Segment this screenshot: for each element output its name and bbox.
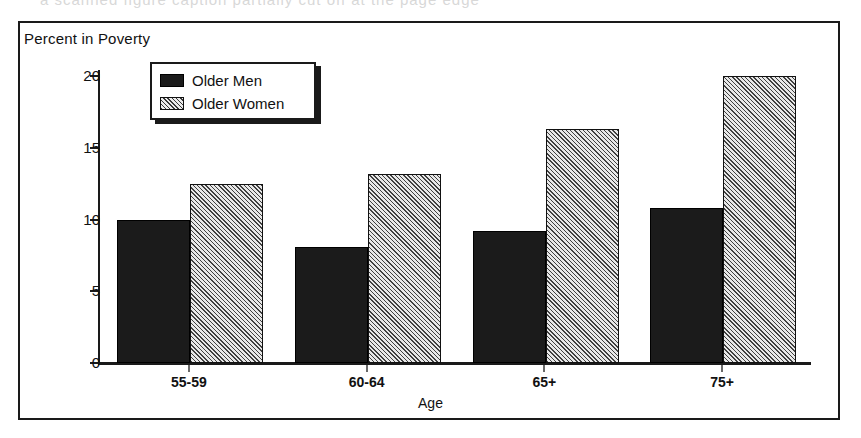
legend-item-older-men: Older Men bbox=[160, 69, 306, 92]
scan-artifact-text: a scanned figure caption partially cut o… bbox=[40, 0, 600, 9]
chart-title: Percent in Poverty bbox=[24, 30, 150, 47]
legend-label: Older Men bbox=[192, 72, 262, 89]
legend-box: Older MenOlder Women bbox=[150, 62, 316, 120]
figure-frame bbox=[18, 21, 840, 420]
legend-label: Older Women bbox=[192, 95, 284, 112]
legend-swatch-icon bbox=[160, 74, 184, 87]
legend-item-older-women: Older Women bbox=[160, 92, 306, 115]
legend-swatch-icon bbox=[160, 97, 184, 110]
